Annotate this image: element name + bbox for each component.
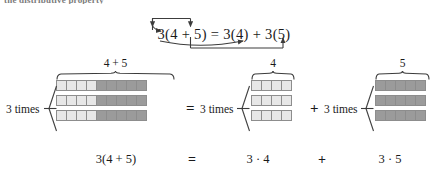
block-cell <box>136 80 147 91</box>
block-row <box>56 80 175 91</box>
group-five: 5 <box>375 58 430 125</box>
equation-left-term: 3(4 + 5) <box>158 26 207 42</box>
times-label-sum: 3 times <box>6 103 40 115</box>
group-five-rows <box>375 80 430 121</box>
equation-equals-sign: = <box>211 26 219 42</box>
block-row <box>251 110 295 121</box>
group-four: 4 <box>251 58 295 125</box>
brace-over-sum-icon <box>56 71 175 80</box>
group-sum-header: 4 + 5 <box>56 58 175 80</box>
group-four-plus-five: 4 + 5 <box>56 58 175 125</box>
equation-plus-sign: + <box>253 26 261 42</box>
group-five-title: 5 <box>375 57 430 69</box>
block-row <box>56 95 175 106</box>
brace-over-five-icon <box>375 71 430 80</box>
equation-term-2: 3(5) <box>265 26 290 42</box>
caption-equals: = <box>170 152 214 168</box>
fan-brace-four-icon <box>237 85 250 132</box>
group-five-header: 5 <box>375 58 430 80</box>
caption-left: 3(4 + 5) <box>70 152 162 167</box>
block-cell <box>136 110 147 121</box>
times-label-five: 3 times <box>324 103 358 115</box>
group-four-rows <box>251 80 295 121</box>
fan-brace-five-icon <box>361 85 374 132</box>
fan-brace-sum-icon <box>44 85 57 132</box>
group-sum-rows <box>56 80 175 121</box>
block-cell <box>136 95 147 106</box>
diagram-equals-operator: = <box>186 101 195 116</box>
block-row <box>251 95 295 106</box>
block-cell <box>415 95 426 106</box>
distributive-equation-figure: 3(4 + 5)=3(4)+3(5) <box>0 8 448 50</box>
group-sum-title: 4 + 5 <box>56 57 175 69</box>
block-cell <box>281 95 292 106</box>
equation-term-1: 3(4) <box>223 26 248 42</box>
block-cell <box>415 110 426 121</box>
block-cell <box>281 80 292 91</box>
block-cell <box>415 80 426 91</box>
brace-over-four-icon <box>251 71 295 80</box>
block-cell <box>281 110 292 121</box>
group-four-header: 4 <box>251 58 295 80</box>
block-row <box>375 80 430 91</box>
equation-text: 3(4 + 5)=3(4)+3(5) <box>0 26 448 43</box>
group-four-title: 4 <box>251 57 295 69</box>
clipped-heading-text: the distributive property <box>4 0 124 4</box>
block-row <box>56 110 175 121</box>
caption-row: 3(4 + 5) = 3 · 4 + 3 · 5 <box>0 152 448 172</box>
block-row <box>375 110 430 121</box>
caption-right: 3 · 5 <box>352 152 428 167</box>
block-row <box>251 80 295 91</box>
caption-plus: + <box>300 152 344 168</box>
caption-middle: 3 · 4 <box>222 152 294 167</box>
diagram-plus-operator: + <box>310 101 319 116</box>
block-row <box>375 95 430 106</box>
times-label-four: 3 times <box>200 103 234 115</box>
